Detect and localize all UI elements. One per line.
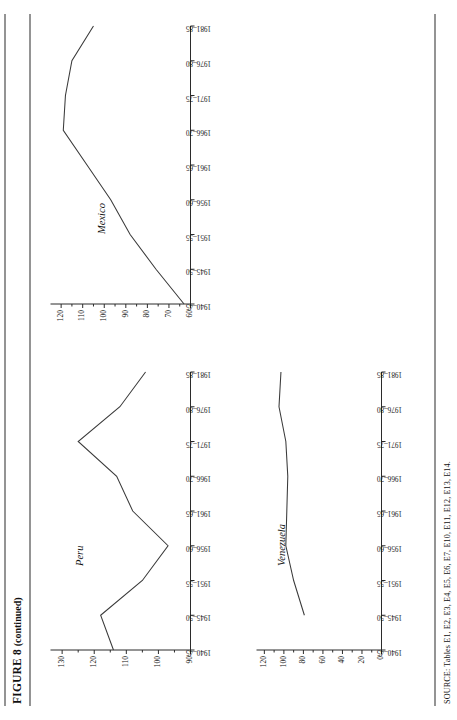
y-tick-label: 120: [88, 656, 97, 668]
chart-title: Mexico: [95, 203, 106, 235]
x-tick-label: 1981–85: [185, 370, 211, 378]
x-tick-label: 1971–75: [185, 94, 211, 102]
x-tick-label: 1940–45: [185, 302, 211, 310]
x-tick-label: 1961–65: [185, 509, 211, 517]
y-tick-label: 130: [56, 656, 65, 668]
x-tick-label: 1951–55: [185, 233, 211, 241]
y-tick-label: 70: [163, 310, 172, 318]
y-tick-label: 100: [153, 656, 162, 668]
header-rule-top: [4, 14, 5, 706]
figure-label: FIGURE 8: [10, 649, 22, 704]
x-tick-label: 1966–70: [185, 474, 211, 482]
chart-peru: 901001101201301940–451945–501951–551956–…: [42, 364, 232, 684]
x-tick-label: 1945–50: [185, 613, 211, 621]
printed-page: FIGURE 8 (continued) SOURCE: Tables E1, …: [0, 0, 457, 720]
x-tick-label: 1940–45: [376, 648, 402, 656]
x-tick-label: 1976–80: [185, 59, 211, 67]
y-tick-label: 110: [77, 310, 86, 321]
series-line: [63, 26, 184, 304]
y-tick-label: 110: [121, 656, 130, 667]
y-tick-label: 120: [259, 656, 268, 668]
x-tick-label: 1956–60: [185, 544, 211, 552]
x-tick-label: 1961–65: [376, 509, 402, 517]
x-tick-label: 1981–85: [185, 24, 211, 32]
x-tick-label: 1981–85: [376, 370, 402, 378]
y-tick-label: 90: [120, 310, 129, 318]
x-tick-label: 1971–75: [376, 440, 402, 448]
header-rule-bottom: [29, 14, 30, 706]
source-rule: [434, 14, 435, 706]
figure-continued: (continued): [11, 597, 22, 646]
chart-title: Peru: [73, 546, 84, 567]
x-tick-label: 1971–75: [185, 440, 211, 448]
y-tick-label: 100: [278, 656, 287, 668]
chart-panel-venezuela: 0204060801001201940–451945–501951–551956…: [248, 364, 423, 684]
x-tick-label: 1956–60: [376, 544, 402, 552]
y-tick-label: 60: [317, 656, 326, 664]
chart-venezuela: 0204060801001201940–451945–501951–551956…: [248, 364, 423, 684]
chart-mexico: 607080901001101201940–451945–501951–5519…: [42, 18, 232, 338]
y-tick-label: 40: [337, 656, 346, 664]
chart-panel-mexico: 607080901001101201940–451945–501951–5519…: [42, 18, 232, 338]
y-tick-label: 20: [356, 656, 365, 664]
x-tick-label: 1976–80: [376, 405, 402, 413]
y-tick-label: 80: [298, 656, 307, 664]
x-tick-label: 1945–50: [376, 613, 402, 621]
x-tick-label: 1951–55: [376, 579, 402, 587]
series-line: [279, 372, 304, 615]
x-tick-label: 1940–45: [185, 648, 211, 656]
chart-title: Venezuela: [275, 524, 286, 566]
x-tick-label: 1966–70: [376, 474, 402, 482]
chart-panel-peru: 901001101201301940–451945–501951–551956–…: [42, 364, 232, 684]
y-tick-label: 120: [55, 310, 64, 322]
page-frame: FIGURE 8 (continued) SOURCE: Tables E1, …: [0, 0, 457, 720]
x-tick-label: 1976–80: [185, 405, 211, 413]
x-tick-label: 1945–50: [185, 267, 211, 275]
x-tick-label: 1966–70: [185, 128, 211, 136]
y-tick-label: 80: [142, 310, 151, 318]
source-note: SOURCE: Tables E1, E2, E3, E4, E5, E6, E…: [442, 461, 451, 704]
y-tick-label: 100: [99, 310, 108, 322]
figure-title: FIGURE 8 (continued): [10, 597, 22, 704]
x-tick-label: 1956–60: [185, 198, 211, 206]
series-line: [78, 372, 168, 650]
x-tick-label: 1961–65: [185, 163, 211, 171]
x-tick-label: 1951–55: [185, 579, 211, 587]
